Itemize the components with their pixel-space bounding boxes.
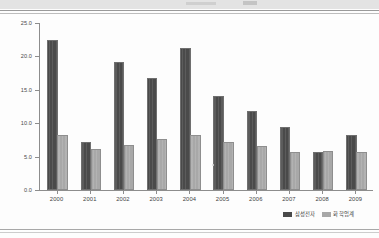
bar-2006-series-2: [257, 146, 268, 190]
bar-2008-series-1: [313, 152, 324, 190]
bar-2007-series-1: [280, 127, 291, 190]
y-tick-label: 0.0: [24, 187, 32, 193]
x-tick-label: 2008: [315, 196, 329, 202]
x-tick-mark: [57, 191, 58, 194]
x-tick-label: 2001: [83, 196, 97, 202]
bar-2002-series-2: [124, 145, 135, 190]
bar-2001-series-2: [91, 149, 102, 190]
y-tick-label: 10.0: [21, 120, 32, 126]
horizontal-rule-bottom: [0, 229, 379, 230]
y-tick-mark: [35, 123, 39, 124]
x-tick-mark: [256, 191, 257, 194]
x-tick-mark: [223, 191, 224, 194]
y-tick-mark: [35, 190, 39, 191]
x-tick-label: 2000: [50, 196, 64, 202]
y-tick-mark: [35, 157, 39, 158]
x-tick-label: 2007: [282, 196, 296, 202]
bar-group: [313, 23, 332, 190]
x-tick-mark: [355, 191, 356, 194]
legend-entry: 삼성전자: [283, 210, 315, 218]
x-tick-label: 2003: [149, 196, 163, 202]
bar-group: [114, 23, 133, 190]
bar-2009-series-1: [346, 135, 357, 190]
x-tick-mark: [123, 191, 124, 194]
bar-group: [247, 23, 266, 190]
y-tick-label: 5.0: [24, 154, 32, 160]
bar-2001-series-1: [81, 142, 92, 190]
legend-entry: 화학업계: [322, 210, 354, 218]
y-tick-mark: [35, 23, 39, 24]
bar-2009-series-2: [356, 152, 367, 190]
chart-legend: 삼성전자화학업계: [283, 210, 354, 218]
bar-2005-series-1: [213, 96, 224, 190]
bar-group: [47, 23, 66, 190]
x-tick-label: 2006: [249, 196, 263, 202]
plot-area: [40, 23, 372, 190]
bar-group: [213, 23, 232, 190]
bar-chart: 25.020.015.010.05.00.0 20002001200220032…: [0, 14, 379, 228]
horizontal-rule-top: [0, 10, 379, 11]
y-tick-label: 15.0: [21, 87, 32, 93]
bar-2004-series-2: [190, 135, 201, 190]
bar-2008-series-2: [323, 151, 334, 190]
bar-2003-series-1: [147, 78, 158, 190]
x-tick-mark: [289, 191, 290, 194]
x-tick-mark: [322, 191, 323, 194]
y-tick-label: 20.0: [21, 53, 32, 59]
x-tick-mark: [156, 191, 157, 194]
bar-2003-series-2: [157, 139, 168, 190]
x-tick-label: 2009: [349, 196, 363, 202]
legend-label: 삼성전자: [295, 210, 315, 218]
bar-2000-series-2: [57, 135, 68, 190]
bar-group: [346, 23, 365, 190]
bar-2006-series-1: [247, 111, 258, 190]
gray-swatch-icon: [322, 212, 331, 217]
y-tick-label: 25.0: [21, 20, 32, 26]
bar-group: [147, 23, 166, 190]
bar-group: [280, 23, 299, 190]
bar-2004-series-1: [180, 48, 191, 190]
dark-swatch-icon: [283, 212, 292, 217]
x-tick-mark: [189, 191, 190, 194]
bar-2002-series-1: [114, 62, 125, 190]
bar-group: [180, 23, 199, 190]
bar-2000-series-1: [47, 40, 58, 190]
y-tick-mark: [35, 90, 39, 91]
horizontal-rule-bottom-secondary: [0, 232, 379, 233]
bar-group: [81, 23, 100, 190]
x-tick-label: 2005: [216, 196, 230, 202]
legend-label: 화학업계: [333, 210, 353, 218]
scanned-page: 25.020.015.010.05.00.0 20002001200220032…: [0, 0, 379, 238]
bar-2005-series-2: [223, 142, 234, 190]
bar-2007-series-2: [290, 152, 301, 190]
page-header-band: [0, 0, 379, 9]
x-tick-mark: [90, 191, 91, 194]
scan-artifact: [186, 2, 216, 5]
scan-artifact: [212, 164, 214, 166]
x-tick-label: 2004: [183, 196, 197, 202]
scan-artifact: [243, 1, 257, 5]
y-tick-mark: [35, 56, 39, 57]
x-tick-label: 2002: [116, 196, 130, 202]
